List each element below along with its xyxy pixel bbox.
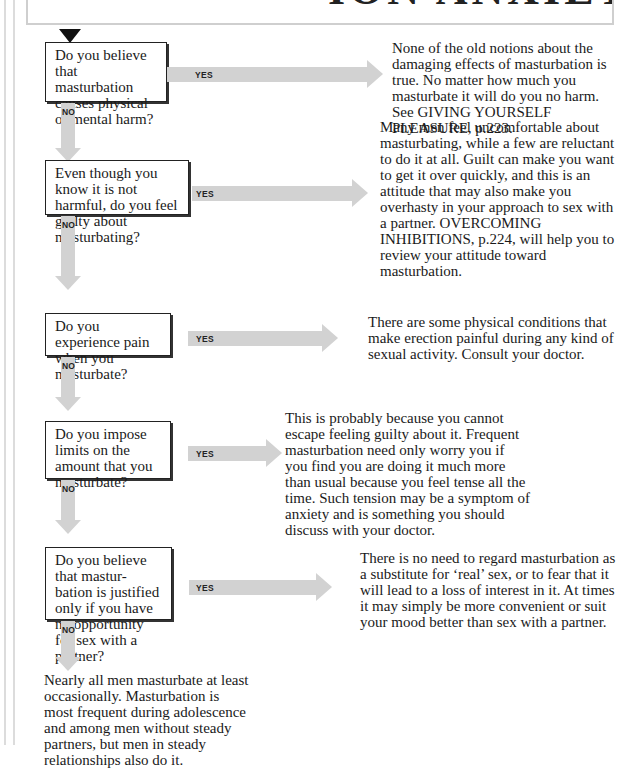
question-box-4: Do you impose limits on the amount that … xyxy=(45,421,171,479)
no-arrowhead-3-icon xyxy=(55,397,81,411)
answer-5: There is no need to regard masturbation … xyxy=(360,550,622,630)
yes-label-2: YES xyxy=(196,189,214,199)
no-arrowhead-4-icon xyxy=(55,520,81,534)
answer-4: This is probably because you cannot esca… xyxy=(285,410,530,538)
yes-label-1: YES xyxy=(195,70,213,80)
no-arrowhead-5-icon xyxy=(55,657,81,671)
question-box-1: Do you believe that masturbation causes … xyxy=(45,42,167,102)
question-box-5: Do you believe that mastur-bation is jus… xyxy=(45,547,172,620)
yes-label-4: YES xyxy=(196,449,214,459)
page-margin-line-outer xyxy=(4,0,6,745)
title-banner: ION ANXIETY xyxy=(26,0,614,25)
page-title: ION ANXIETY xyxy=(28,0,612,15)
no-label-5: NO xyxy=(62,625,75,635)
no-label-3: NO xyxy=(62,361,75,371)
yes-label-3: YES xyxy=(196,334,214,344)
yes-arrowhead-5-icon xyxy=(316,573,332,601)
yes-arrowhead-4-icon xyxy=(266,439,282,467)
yes-arrow-2 xyxy=(192,186,352,201)
yes-arrowhead-3-icon xyxy=(322,324,338,352)
question-box-3: Do you experience pain when you masturba… xyxy=(45,313,171,356)
no-label-2: NO xyxy=(62,220,75,230)
answer-3: There are some physical conditions that … xyxy=(368,314,618,362)
yes-arrowhead-2-icon xyxy=(352,179,368,207)
yes-label-5: YES xyxy=(196,583,214,593)
answer-2: Many men feel uncomfortable about mastur… xyxy=(380,119,620,279)
yes-arrowhead-1-icon xyxy=(367,60,383,88)
no-label-4: NO xyxy=(62,484,75,494)
page-margin-line-inner xyxy=(13,0,15,745)
conclusion-text: Nearly all men masturbate at least occas… xyxy=(44,672,249,768)
start-arrow-icon xyxy=(59,29,81,43)
no-arrowhead-2-icon xyxy=(55,276,81,290)
question-box-2: Even though you know it is not harmful, … xyxy=(45,160,189,215)
no-label-1: NO xyxy=(62,107,75,117)
